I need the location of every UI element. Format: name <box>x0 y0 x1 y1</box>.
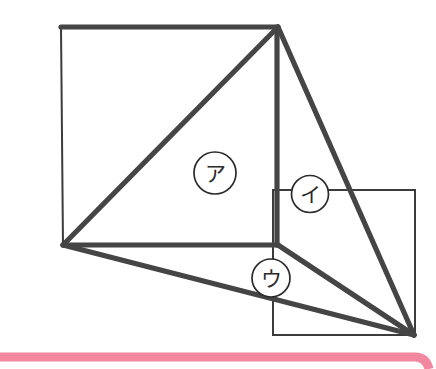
bottom-left-to-far-right-diagonal <box>63 245 414 335</box>
geometry-diagram: ア イ ウ <box>0 0 436 369</box>
region-label-i: イ <box>292 176 329 213</box>
region-label-u-text: ウ <box>261 267 282 291</box>
region-label-a-text: ア <box>205 162 226 186</box>
region-label-u: ウ <box>252 259 290 297</box>
figure-page: ア イ ウ <box>0 0 436 369</box>
apex-to-bottom-left-diagonal <box>63 27 278 245</box>
right-rectangle-outline <box>273 190 415 335</box>
region-label-a: ア <box>194 152 236 194</box>
pink-highlight-band <box>0 357 429 369</box>
region-label-i-text: イ <box>300 183 321 207</box>
